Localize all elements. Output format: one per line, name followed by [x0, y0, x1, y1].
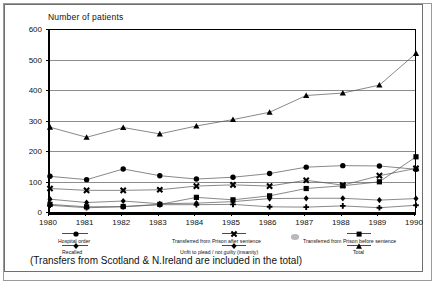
x-tickmark: [377, 213, 378, 216]
x-tickmark: [304, 213, 305, 216]
x-tick-label: 1983: [141, 218, 175, 227]
x-tick-label: 1980: [31, 218, 65, 227]
x-tickmark: [414, 213, 415, 216]
series-triangle: [47, 50, 419, 139]
x-tick-label: 1990: [397, 218, 431, 227]
series-circle: [47, 163, 418, 182]
y-axis-title: Number of patients: [48, 12, 123, 22]
y-tick-label: 400: [16, 86, 42, 95]
x-tick-label: 1984: [177, 218, 211, 227]
x-tickmark: [121, 213, 122, 216]
x-tick-label: 1985: [214, 218, 248, 227]
series-plus: [47, 202, 419, 211]
legend-label-before-sentence: Transferred from Prison before sentence: [303, 238, 396, 244]
x-tick-label: 1989: [360, 218, 394, 227]
y-tick-label: 300: [16, 117, 42, 126]
x-tick-label: 1988: [324, 218, 358, 227]
x-tickmark: [268, 213, 269, 216]
y-tick-label: 200: [16, 147, 42, 156]
y-tick-label: 600: [16, 25, 42, 34]
chart-screenshot: Number of patients 6005004003002001000 1…: [0, 0, 437, 286]
x-tick-label: 1986: [251, 218, 285, 227]
x-tick-label: 1982: [104, 218, 138, 227]
plot-area: [48, 29, 416, 215]
x-tick-label: 1981: [68, 218, 102, 227]
x-tick-label: 1987: [287, 218, 321, 227]
y-tick-label: 500: [16, 56, 42, 65]
x-tickmark: [48, 213, 49, 216]
x-tickmark: [85, 213, 86, 216]
data-series-layer: [50, 29, 416, 212]
legend-label-total: Total: [353, 249, 364, 255]
chart-caption: (Transfers from Scotland & N.Ireland are…: [30, 255, 302, 266]
x-tickmark: [158, 213, 159, 216]
legend-label-after-sentence: Transferred from Prison after sentence: [172, 238, 261, 244]
x-tickmark: [341, 213, 342, 216]
x-tickmark: [231, 213, 232, 216]
y-tick-label: 0: [16, 208, 42, 217]
y-tick-label: 100: [16, 178, 42, 187]
legend-marker-before-sentence-dot: [288, 231, 302, 243]
x-tickmark: [194, 213, 195, 216]
